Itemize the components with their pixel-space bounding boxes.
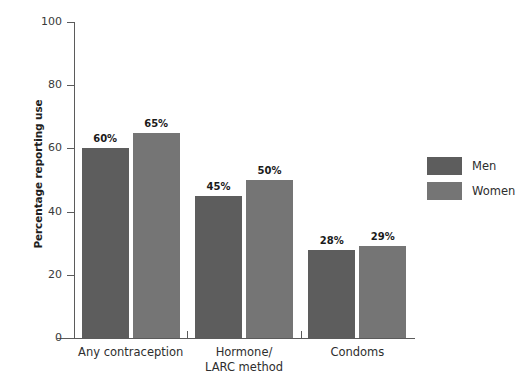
bar-chart: Percentage reporting use 020406080100 60… — [0, 0, 528, 392]
y-tick-mark — [67, 338, 75, 339]
bar-men-0[interactable] — [82, 148, 129, 338]
y-tick-label: 0 — [26, 332, 62, 343]
bar-value-label: 50% — [246, 165, 293, 176]
plot-area — [74, 22, 414, 338]
bar-value-label: 60% — [82, 133, 129, 144]
y-tick-label: 40 — [26, 206, 62, 217]
legend-swatch-men-icon — [427, 157, 462, 175]
bar-value-label: 45% — [195, 181, 242, 192]
x-axis-line — [57, 338, 415, 339]
y-tick-label-wrap: 80 — [22, 85, 62, 86]
bar-value-label: 65% — [133, 118, 180, 129]
y-tick-label-wrap: 20 — [22, 275, 62, 276]
y-tick-label: 20 — [26, 269, 62, 280]
legend-swatch-women-icon — [427, 182, 462, 200]
bar-women-0[interactable] — [133, 133, 180, 338]
y-tick-label-wrap: 0 — [22, 338, 62, 339]
bar-men-1[interactable] — [195, 196, 242, 338]
category-label: Condoms — [277, 345, 437, 360]
y-tick-label: 60 — [26, 142, 62, 153]
legend-label-men: Men — [472, 159, 496, 173]
bar-women-2[interactable] — [359, 246, 406, 338]
bar-women-1[interactable] — [246, 180, 293, 338]
bar-value-label: 29% — [359, 231, 406, 242]
y-tick-label-wrap: 60 — [22, 148, 62, 149]
y-tick-label: 100 — [26, 16, 62, 27]
y-tick-label-wrap: 40 — [22, 212, 62, 213]
legend-label-women: Women — [472, 184, 515, 198]
bar-value-label: 28% — [308, 235, 355, 246]
y-tick-label-wrap: 100 — [22, 22, 62, 23]
y-tick-label: 80 — [26, 79, 62, 90]
bar-men-2[interactable] — [308, 250, 355, 338]
y-axis-title: Percentage reporting use — [32, 74, 44, 274]
